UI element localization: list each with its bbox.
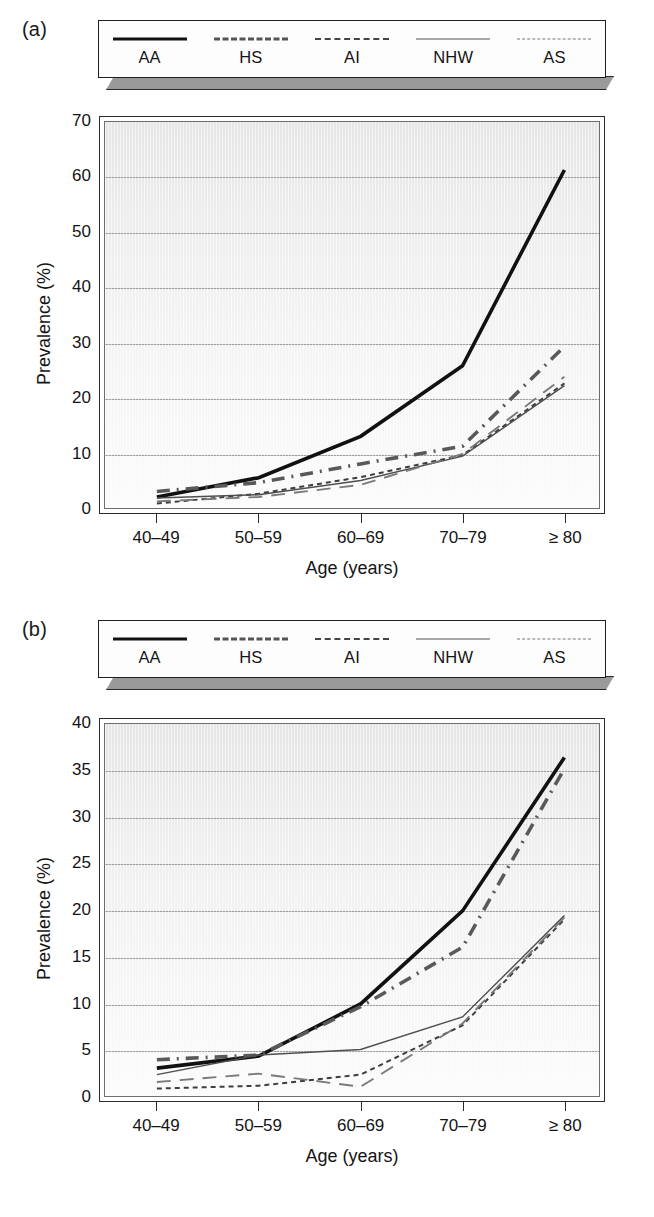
x-tick-mark <box>565 514 566 523</box>
series-line-hs <box>157 769 565 1060</box>
series-line-aa <box>157 170 565 497</box>
x-tick-label: 70–79 <box>439 1116 486 1136</box>
legend-swatch-as-icon <box>517 33 591 45</box>
x-tick-mark <box>156 514 157 523</box>
y-tick-label: 30 <box>72 807 91 827</box>
y-tick-label: 15 <box>72 947 91 967</box>
x-tick-label: ≥ 80 <box>549 1116 582 1136</box>
series-line-nhw <box>157 386 565 498</box>
legend-item-as: AS <box>504 621 605 677</box>
legend-swatch-nhw-icon <box>416 633 490 645</box>
legend-item-aa: AA <box>99 21 200 77</box>
legend-item-as: AS <box>504 21 605 77</box>
series-layer-a <box>105 122 599 508</box>
legend-label-hs: HS <box>239 648 262 666</box>
x-tick-mark <box>463 514 464 523</box>
x-axis-title-a: Age (years) <box>305 558 398 579</box>
legend-item-hs: HS <box>200 21 301 77</box>
y-tick-label: 50 <box>72 222 91 242</box>
x-tick-mark <box>258 1102 259 1111</box>
legend-swatch-as-icon <box>517 633 591 645</box>
x-tick-mark <box>258 514 259 523</box>
legend-item-aa: AA <box>99 621 200 677</box>
y-tick-label: 20 <box>72 388 91 408</box>
legend-swatch-ai-icon <box>315 33 389 45</box>
panel-a: (a) AA HS AI NHW AS <box>0 0 654 600</box>
legend-label-as: AS <box>543 648 565 666</box>
legend-label-ai: AI <box>344 648 360 666</box>
legend-a-box: AA HS AI NHW AS <box>98 20 606 78</box>
x-tick-label: 40–49 <box>132 1116 179 1136</box>
x-tick-label: 50–59 <box>235 528 282 548</box>
legend-label-ai: AI <box>344 48 360 66</box>
legend-label-aa: AA <box>138 648 160 666</box>
y-axis-title-a: Prevalence (%) <box>34 262 55 385</box>
legend-item-ai: AI <box>301 21 402 77</box>
series-line-as <box>157 377 565 502</box>
legend-label-aa: AA <box>138 48 160 66</box>
plot-area-b <box>99 718 605 1102</box>
y-tick-label: 40 <box>72 277 91 297</box>
plot-inner-b <box>104 723 600 1097</box>
y-tick-label: 40 <box>72 713 91 733</box>
y-tick-label: 0 <box>82 499 91 519</box>
legend-swatch-ai-icon <box>315 633 389 645</box>
legend-b-shadow <box>106 676 614 690</box>
legend-swatch-aa-icon <box>113 633 187 645</box>
y-tick-label: 30 <box>72 333 91 353</box>
x-axis-title-b: Age (years) <box>305 1146 398 1167</box>
plot-inner-a <box>104 121 600 509</box>
x-tick-mark <box>463 1102 464 1111</box>
legend-item-nhw: NHW <box>403 621 504 677</box>
legend-b: AA HS AI NHW AS <box>98 620 606 692</box>
legend-label-nhw: NHW <box>433 48 473 66</box>
x-tick-mark <box>156 1102 157 1111</box>
x-tick-label: 60–69 <box>337 528 384 548</box>
y-tick-label: 20 <box>72 900 91 920</box>
y-tick-label: 10 <box>72 444 91 464</box>
figure-caption <box>18 1199 636 1215</box>
legend-label-as: AS <box>543 48 565 66</box>
legend-item-hs: HS <box>200 621 301 677</box>
legend-swatch-hs-icon <box>214 33 288 45</box>
x-tick-mark <box>361 514 362 523</box>
y-tick-label: 5 <box>82 1040 91 1060</box>
legend-item-ai: AI <box>301 621 402 677</box>
x-tick-label: 70–79 <box>439 528 486 548</box>
legend-swatch-aa-icon <box>113 33 187 45</box>
panel-b-label: (b) <box>22 618 47 641</box>
x-tick-mark <box>565 1102 566 1111</box>
legend-swatch-hs-icon <box>214 633 288 645</box>
y-tick-label: 70 <box>72 111 91 131</box>
legend-b-box: AA HS AI NHW AS <box>98 620 606 678</box>
panel-b: (b) AA HS AI NHW AS <box>0 592 654 1172</box>
y-tick-label: 25 <box>72 853 91 873</box>
series-layer-b <box>105 724 599 1096</box>
legend-label-hs: HS <box>239 48 262 66</box>
plot-area-a <box>99 116 605 514</box>
x-tick-label: ≥ 80 <box>549 528 582 548</box>
legend-swatch-nhw-icon <box>416 33 490 45</box>
panel-a-label: (a) <box>22 18 47 41</box>
legend-a-shadow <box>106 76 614 90</box>
legend-a: AA HS AI NHW AS <box>98 20 606 92</box>
x-tick-label: 50–59 <box>235 1116 282 1136</box>
y-axis-title-b: Prevalence (%) <box>34 857 55 980</box>
x-tick-label: 60–69 <box>337 1116 384 1136</box>
y-tick-label: 10 <box>72 994 91 1014</box>
legend-item-nhw: NHW <box>403 21 504 77</box>
series-line-hs <box>157 346 565 491</box>
y-tick-label: 60 <box>72 166 91 186</box>
y-tick-label: 0 <box>82 1087 91 1107</box>
x-tick-mark <box>361 1102 362 1111</box>
series-line-aa <box>157 757 565 1068</box>
legend-label-nhw: NHW <box>433 648 473 666</box>
series-line-nhw <box>157 916 565 1075</box>
y-tick-label: 35 <box>72 760 91 780</box>
x-tick-label: 40–49 <box>132 528 179 548</box>
